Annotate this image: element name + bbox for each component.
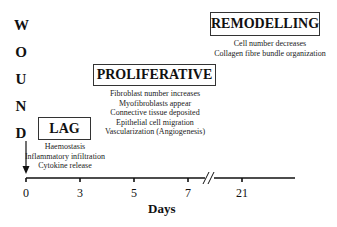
- proliferative-item: Myofibroblasts appear: [100, 99, 210, 109]
- remodelling-item: Collagen fibre bundle organization: [214, 49, 326, 59]
- phase-box-lag: LAG: [38, 117, 91, 140]
- proliferative-item: Vascularization (Angiogenesis): [100, 127, 210, 137]
- phase-list-proliferative: Fibroblast number increases Myofibroblas…: [100, 89, 210, 137]
- tick-label-3: 3: [70, 186, 90, 201]
- phase-box-remodelling: REMODELLING: [210, 12, 320, 36]
- lag-item: Cytokine release: [22, 161, 108, 171]
- phase-box-proliferative: PROLIFERATIVE: [93, 64, 216, 86]
- tick-label-5: 5: [124, 186, 144, 201]
- time-axis: [26, 172, 295, 184]
- tick-label-0: 0: [16, 186, 36, 201]
- remodelling-item: Cell number decreases: [214, 39, 326, 49]
- tick-label-7: 7: [178, 186, 198, 201]
- lag-item: Inflammatory infiltration: [22, 152, 108, 162]
- lag-item: Haemostasis: [22, 142, 108, 152]
- proliferative-item: Fibroblast number increases: [100, 89, 210, 99]
- phase-list-remodelling: Cell number decreases Collagen fibre bun…: [214, 39, 326, 58]
- axis-title-days: Days: [148, 201, 175, 217]
- proliferative-item: Epithelial cell migration: [100, 118, 210, 128]
- proliferative-item: Connective tissue deposited: [100, 108, 210, 118]
- tick-label-21: 21: [232, 186, 252, 201]
- phase-list-lag: Haemostasis Inflammatory infiltration Cy…: [22, 142, 108, 171]
